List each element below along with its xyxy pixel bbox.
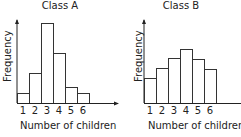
histogram-bar bbox=[157, 69, 169, 104]
histogram-bar bbox=[30, 74, 42, 104]
histogram-bar bbox=[181, 50, 193, 104]
x-axis-label: Number of children bbox=[20, 120, 116, 131]
histogram-bar bbox=[54, 54, 66, 104]
x-tick-label: 5 bbox=[65, 105, 77, 116]
histogram-bar bbox=[169, 59, 181, 104]
x-tick-label: 1 bbox=[17, 105, 29, 116]
y-axis-arrow-icon bbox=[142, 19, 146, 24]
chart-class-b: Class B Frequency 123456 Number of child… bbox=[121, 0, 241, 137]
y-axis-arrow-icon bbox=[15, 19, 19, 24]
x-axis-arrow-icon bbox=[114, 102, 119, 106]
x-tick-label: 1 bbox=[144, 105, 156, 116]
x-tick-label: 4 bbox=[180, 105, 192, 116]
histogram-bar bbox=[66, 88, 78, 104]
x-tick-label: 5 bbox=[192, 105, 204, 116]
histogram-bar bbox=[78, 94, 90, 104]
x-tick-label: 4 bbox=[53, 105, 65, 116]
histogram-plot bbox=[0, 0, 120, 137]
histogram-plot bbox=[121, 0, 241, 137]
chart-class-a: Class A Frequency 123456 Number of child… bbox=[0, 0, 120, 137]
x-tick-label: 6 bbox=[204, 105, 216, 116]
x-tick-label: 2 bbox=[29, 105, 41, 116]
histogram-bar bbox=[145, 79, 157, 104]
histogram-bar bbox=[193, 60, 205, 104]
x-tick-label: 6 bbox=[77, 105, 89, 116]
histogram-bar bbox=[18, 94, 30, 104]
x-tick-label: 2 bbox=[156, 105, 168, 116]
x-tick-label: 3 bbox=[168, 105, 180, 116]
histogram-bar bbox=[42, 24, 54, 104]
x-axis-label: Number of children bbox=[148, 120, 241, 131]
histogram-bar bbox=[205, 70, 217, 104]
x-tick-label: 3 bbox=[41, 105, 53, 116]
